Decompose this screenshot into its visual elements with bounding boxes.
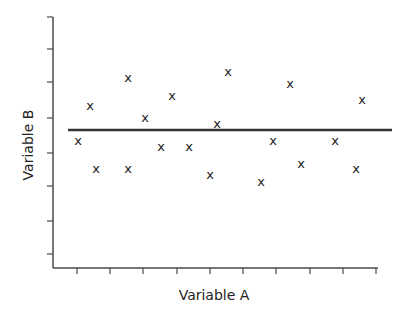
data-point-x-marker: x xyxy=(286,76,294,91)
x-axis-ticks xyxy=(77,268,376,274)
data-point-x-marker: x xyxy=(124,70,132,85)
data-point-x-marker: x xyxy=(92,161,100,176)
data-point-x-marker: x xyxy=(331,133,339,148)
data-point-x-marker: x xyxy=(297,156,305,171)
y-axis xyxy=(47,17,53,268)
data-point-x-marker: x xyxy=(224,64,232,79)
data-point-x-marker: x xyxy=(86,98,94,113)
scatter-chart: xxxxxxxxxxxxxxxxxxx Variable A Variable … xyxy=(0,0,408,318)
y-axis-ticks xyxy=(47,17,53,254)
data-point-x-marker: x xyxy=(124,161,132,176)
data-point-x-marker: x xyxy=(157,139,165,154)
data-point-x-marker: x xyxy=(168,88,176,103)
y-axis-label: Variable B xyxy=(20,110,36,181)
data-point-x-marker: x xyxy=(358,92,366,107)
data-point-x-marker: x xyxy=(352,161,360,176)
data-points: xxxxxxxxxxxxxxxxxxx xyxy=(74,64,366,189)
data-point-x-marker: x xyxy=(269,133,277,148)
data-point-x-marker: x xyxy=(257,174,265,189)
data-point-x-marker: x xyxy=(185,139,193,154)
x-axis-label: Variable A xyxy=(179,287,250,303)
x-axis xyxy=(53,268,378,274)
data-point-x-marker: x xyxy=(74,133,82,148)
data-point-x-marker: x xyxy=(141,110,149,125)
data-point-x-marker: x xyxy=(213,116,221,131)
data-point-x-marker: x xyxy=(206,167,214,182)
